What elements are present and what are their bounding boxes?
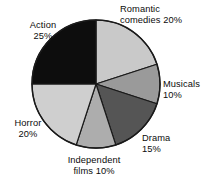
pie-label-romantic-comedies: Romantic comedies 20% bbox=[120, 4, 212, 25]
pie-label-drama: Drama 15% bbox=[142, 133, 204, 154]
pie-label-action: Action 25% bbox=[12, 20, 74, 41]
pie-label-horror: Horror 20% bbox=[2, 118, 54, 139]
pie-chart: Romantic comedies 20% Musicals 10% Drama… bbox=[0, 0, 214, 187]
pie-label-independent-films: Independent films 10% bbox=[48, 155, 140, 176]
pie-label-musicals: Musicals 10% bbox=[163, 79, 214, 100]
